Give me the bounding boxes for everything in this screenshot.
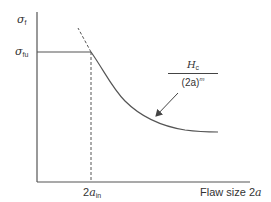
curve-equation: Hc (2a)m: [168, 59, 218, 88]
y-axis-label: σf: [17, 14, 26, 26]
curve-extension-dashed: [78, 28, 91, 52]
y-tick-sigma-fu: σfu: [15, 46, 28, 58]
x-tick-2a-in: 2ain: [83, 187, 101, 199]
x-axis-label: Flaw size 2a: [200, 187, 262, 198]
equation-denominator: (2a)m: [168, 74, 218, 88]
diagram-canvas: [0, 0, 271, 202]
annotation-arrow: [156, 93, 178, 116]
equation-numerator: Hc: [168, 59, 218, 74]
